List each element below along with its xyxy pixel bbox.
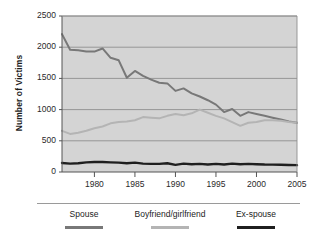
legend-item-ex-spouse[interactable]: Ex-spouse xyxy=(220,209,292,229)
legend-divider xyxy=(37,203,300,204)
legend-item-spouse[interactable]: Spouse xyxy=(48,209,120,229)
legend-swatch-spouse xyxy=(65,226,103,229)
legend-label-boyfriend-girlfriend: Boyfriend/girlfriend xyxy=(124,209,216,220)
line-chart: Number of Victims 05001000150020002500 1… xyxy=(0,0,321,248)
legend-swatch-boyfriend-girlfriend xyxy=(151,226,189,229)
legend-swatch-ex-spouse xyxy=(237,226,275,229)
legend-label-ex-spouse: Ex-spouse xyxy=(220,209,292,220)
chart-legend: Spouse Boyfriend/girlfriend Ex-spouse xyxy=(0,198,321,244)
legend-label-spouse: Spouse xyxy=(48,209,120,220)
legend-item-boyfriend-girlfriend[interactable]: Boyfriend/girlfriend xyxy=(124,209,216,229)
